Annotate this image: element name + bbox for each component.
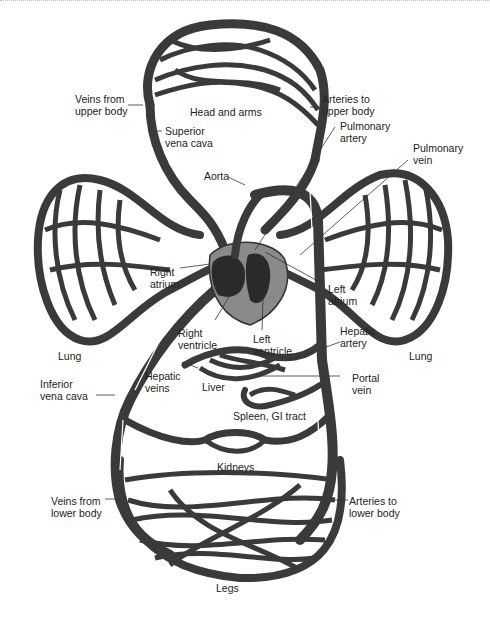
label-portal-vein: Portal vein	[352, 372, 379, 396]
label-arteries-lower-body: Arteries to lower body	[349, 495, 400, 519]
label-veins-upper-body: Veins from upper body	[75, 93, 128, 117]
diagram-artwork	[0, 0, 490, 622]
label-spleen-gi-tract: Spleen, GI tract	[233, 410, 306, 422]
circulatory-diagram: Veins from upper body Head and arms Arte…	[0, 0, 490, 622]
label-right-atrium: Right atrium	[150, 266, 179, 290]
label-hepatic-artery: Hepatic artery	[340, 325, 376, 349]
label-left-ventricle: Left ventricle	[253, 333, 292, 357]
label-superior-vena-cava: Superior vena cava	[165, 125, 213, 149]
label-arteries-upper-body: Arteries to upper body	[322, 93, 375, 117]
legs-network	[120, 460, 342, 578]
label-lung-left: Lung	[58, 350, 81, 362]
label-left-atrium: Left atrium	[328, 283, 357, 307]
label-aorta: Aorta	[204, 170, 229, 182]
label-pulmonary-vein: Pulmonary vein	[413, 142, 463, 166]
label-right-ventricle: Right ventricle	[178, 327, 217, 351]
label-liver: Liver	[202, 381, 225, 393]
label-veins-lower-body: Veins from lower body	[51, 495, 102, 519]
label-legs: Legs	[216, 582, 239, 594]
spleen-gi-network	[244, 385, 320, 406]
label-pulmonary-artery: Pulmonary artery	[340, 120, 390, 144]
label-inferior-vena-cava: Inferior vena cava	[40, 378, 88, 402]
label-lung-right: Lung	[409, 350, 432, 362]
label-head-arms: Head and arms	[190, 106, 262, 118]
label-kidneys: Kidneys	[217, 461, 254, 473]
label-hepatic-veins: Hepatic veins	[145, 370, 181, 394]
